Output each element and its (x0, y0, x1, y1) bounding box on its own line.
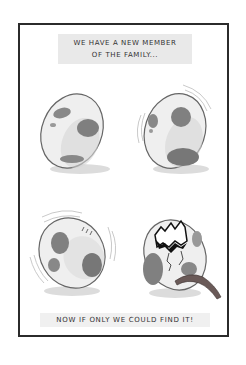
caption-top: We have a new member of the family... (58, 34, 192, 64)
caption-bottom: Now if only we could find it! (40, 313, 210, 327)
caption-top-line-1: We have a new member (58, 37, 192, 49)
egg-shaking-illustration (22, 197, 122, 307)
egg-still-illustration (22, 73, 122, 183)
caption-top-line-2: of the family... (58, 49, 192, 61)
egg-hatched-illustration (125, 197, 225, 307)
comic-panel: We have a new member of the family... (18, 23, 229, 337)
egg-wobbling-illustration (125, 73, 225, 183)
